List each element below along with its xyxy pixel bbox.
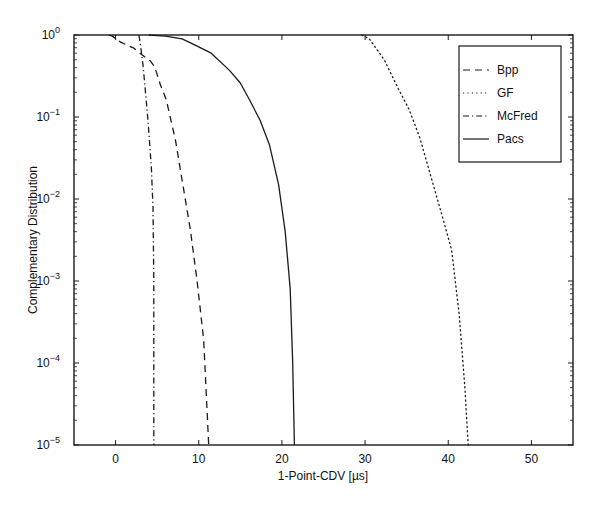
chart-canvas: 0102030405010010−110−210−310−410−5 1-Poi… bbox=[0, 0, 601, 512]
x-tick-label: 30 bbox=[358, 452, 372, 466]
series-layer bbox=[109, 35, 468, 445]
y-tick-label: 10−5 bbox=[36, 435, 60, 452]
x-tick-label: 40 bbox=[442, 452, 456, 466]
series-line-mcfred bbox=[139, 35, 154, 445]
legend: BppGFMcFredPacs bbox=[459, 46, 561, 162]
x-tick-label: 20 bbox=[275, 452, 289, 466]
legend-label-gf: GF bbox=[497, 86, 514, 100]
x-tick-label: 50 bbox=[525, 452, 539, 466]
y-tick-label: 10−4 bbox=[36, 353, 60, 370]
x-tick-label: 10 bbox=[192, 452, 206, 466]
x-axis-label: 1-Point-CDV [µs] bbox=[278, 469, 368, 483]
series-line-gf bbox=[362, 35, 468, 445]
y-tick-label: 10−1 bbox=[36, 107, 60, 124]
y-tick-label: 100 bbox=[42, 25, 60, 42]
series-line-bpp bbox=[109, 35, 209, 445]
legend-label-bpp: Bpp bbox=[497, 63, 519, 77]
legend-label-mcfred: McFred bbox=[497, 109, 538, 123]
x-tick-label: 0 bbox=[112, 452, 119, 466]
y-axis-label: Complementary Distribution bbox=[26, 166, 40, 314]
series-line-pacs bbox=[149, 35, 295, 445]
legend-label-pacs: Pacs bbox=[497, 132, 524, 146]
